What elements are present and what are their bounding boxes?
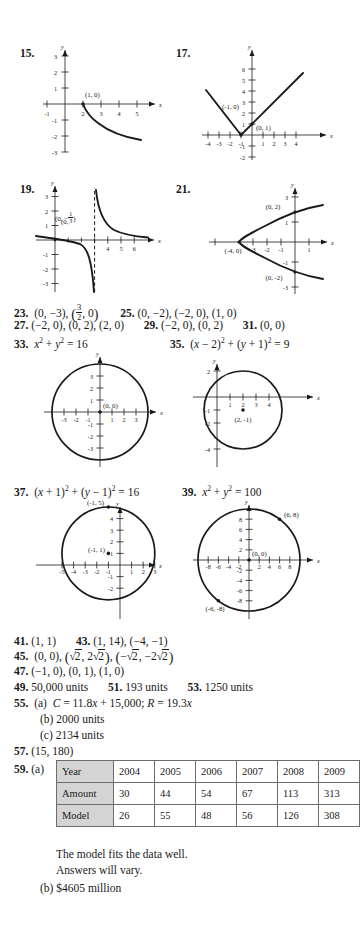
table-cell: 2005: [155, 761, 196, 783]
x-tick-label: 1: [261, 140, 264, 147]
answer-text-41: (1, 1): [31, 635, 56, 647]
x-tick-label: 3: [254, 401, 257, 408]
table-cell: 2009: [319, 761, 360, 783]
y-tick-label: 2: [110, 538, 113, 545]
answer-number-47: 47.: [14, 665, 28, 677]
answer-note-59-1: The model fits the data well.: [56, 847, 188, 863]
table-cell: 26: [114, 805, 155, 827]
answer-line-33: 33. x2 + y2 = 16: [14, 333, 88, 352]
table-cell: 56: [237, 805, 278, 827]
answer-line-47: 47. (−1, 0), (0, 1), (1, 0): [14, 664, 124, 680]
table-cell: 2006: [196, 761, 237, 783]
answer-number-41: 41.: [14, 635, 28, 647]
y-axis-label: y: [115, 500, 119, 507]
figure-39: -8 -6 -4 -2 2 4 6 8 8 6 4 2 -2 -4 -6 -8 …: [185, 497, 335, 624]
table-cell: 2007: [237, 761, 278, 783]
answer-text-31: (0, 0): [260, 319, 285, 331]
y-tick-label: -3: [88, 445, 93, 452]
y-tick-label: -1: [108, 573, 113, 580]
point-label: (-6, -8): [205, 605, 224, 613]
y-tick-label: 4: [239, 536, 242, 543]
answer-text-27: (−2, 0), (0, 2), (2, 0): [31, 319, 124, 331]
answer-text-47: (−1, 0), (0, 1), (1, 0): [31, 665, 124, 677]
x-tick-label: -4: [226, 563, 231, 570]
y-tick-label: 3: [285, 194, 288, 201]
data-table-wrapper: Year 2004 2005 2006 2007 2008 2009 Amoun…: [56, 760, 360, 827]
x-tick-label: 3: [99, 110, 102, 117]
y-tick-label: -1: [88, 421, 93, 428]
x-tick-label: 5: [119, 245, 122, 252]
figure-number-21: 21.: [176, 183, 190, 195]
x-tick-label: 1: [307, 246, 310, 253]
table-row-header: Year: [57, 761, 114, 783]
answer-line-45: 45. (0, 0), (√2, 2√2), (−√2, −2√2): [14, 649, 173, 665]
table-cell: 2008: [278, 761, 319, 783]
x-axis-label: x: [316, 394, 320, 401]
x-tick-label: -1: [44, 110, 49, 117]
answer-line-59b: (b) $4605 million: [40, 881, 121, 897]
x-tick-label: -2: [264, 246, 269, 253]
answer-number-23: 23.: [14, 307, 28, 319]
table-row-header: Amount: [57, 783, 114, 805]
x-axis-label: x: [329, 132, 333, 139]
answer-text-43: (1, 14), (−4, −1): [93, 635, 167, 647]
x-tick-label: -6: [216, 563, 221, 570]
table-cell: 55: [155, 805, 196, 827]
answer-text-57: (15, 180): [31, 745, 73, 757]
x-tick-label: 4: [294, 140, 297, 147]
table-cell: 44: [155, 783, 196, 805]
figure-number-15: 15.: [20, 47, 34, 59]
point-label-fraction-19: (0, −13): [55, 211, 76, 224]
y-tick-label: 4: [110, 515, 113, 522]
y-tick-label: -1: [283, 259, 288, 266]
answer-label-59a: (a): [31, 763, 44, 775]
x-tick-label: 8: [288, 563, 291, 570]
x-tick-label: 5: [135, 110, 138, 117]
answer-line-49-51-53: 49. 50,000 units 51. 193 units 53. 1250 …: [14, 680, 253, 696]
x-tick-label: 2: [142, 568, 145, 575]
point-label: (0, -2): [266, 274, 283, 282]
y-tick-label: -2: [52, 133, 57, 140]
answer-text-53: 1250 units: [205, 681, 253, 693]
y-tick-label: 1: [242, 121, 245, 128]
table-cell: 67: [237, 783, 278, 805]
x-tick-label: 2: [122, 416, 125, 423]
point-label: (0, 2): [266, 203, 281, 211]
y-tick-label: -6: [237, 587, 242, 594]
y-tick-label: -4: [237, 577, 242, 584]
answer-number-31: 31.: [243, 319, 257, 331]
x-tick-label: 2: [241, 401, 244, 408]
x-tick-label: 2: [81, 110, 84, 117]
answer-line-55b: (b) 2000 units: [40, 712, 105, 728]
table-cell: 313: [319, 783, 360, 805]
x-tick-label: 3: [153, 568, 156, 575]
table-cell: 308: [319, 805, 360, 827]
table-cell: 126: [278, 805, 319, 827]
x-tick-label: 1: [228, 401, 231, 408]
answer-line-55c: (c) 2134 units: [40, 728, 104, 744]
answer-text-23: (0, −3), (32, 0): [31, 307, 98, 319]
answer-text-33: x2 + y2 = 16: [31, 338, 88, 350]
x-tick-label: 4: [268, 563, 271, 570]
answer-number-35: 35.: [170, 338, 184, 350]
y-tick-label: -4: [205, 446, 210, 453]
answer-text-51: 193 units: [125, 681, 168, 693]
table-row: Year 2004 2005 2006 2007 2008 2009: [57, 761, 360, 783]
y-tick-label: 1: [90, 397, 93, 404]
y-tick-label: 4: [242, 88, 245, 95]
y-tick-label: -1: [240, 143, 245, 150]
y-tick-label: -3: [283, 284, 288, 291]
point-label: (-1, 5): [87, 499, 104, 507]
figure-number-17: 17.: [176, 47, 190, 59]
x-tick-label: 3: [134, 416, 137, 423]
y-tick-label: -3: [43, 280, 48, 287]
figure-33: -3 -2 -1 1 2 3 3 2 1 -1 -2 -3 x y (0, 0): [30, 352, 170, 472]
x-tick-label: -8: [206, 563, 211, 570]
x-tick-label: 6: [133, 245, 136, 252]
x-tick-label: -3: [83, 568, 88, 575]
y-axis-label: y: [290, 181, 294, 188]
answer-number-25: 25.: [120, 307, 134, 319]
point-label: (6, 8): [284, 511, 299, 519]
x-tick-label: 6: [278, 563, 281, 570]
answer-text-49: 50,000 units: [31, 681, 88, 693]
